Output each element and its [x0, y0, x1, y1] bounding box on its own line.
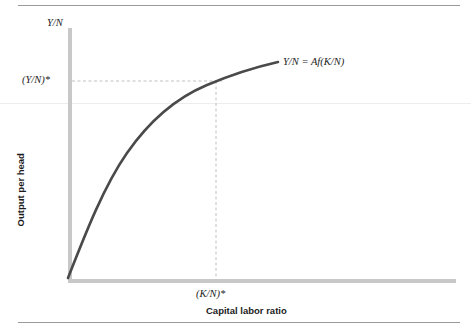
y-star-tick-label: (Y/N)*	[22, 75, 50, 86]
curve-equation-label: Y/N = Af(K/N)	[283, 57, 344, 68]
production-function-curve	[68, 62, 278, 278]
x-star-tick-label: (K/N)*	[196, 289, 225, 300]
plot-area	[0, 0, 471, 333]
production-function-figure: Y/N (Y/N)* (K/N)* Y/N = Af(K/N) Capital …	[0, 0, 471, 333]
y-axis-title: Output per head	[16, 140, 26, 240]
x-axis-title: Capital labor ratio	[206, 306, 287, 316]
y-axis-top-label: Y/N	[47, 18, 63, 29]
